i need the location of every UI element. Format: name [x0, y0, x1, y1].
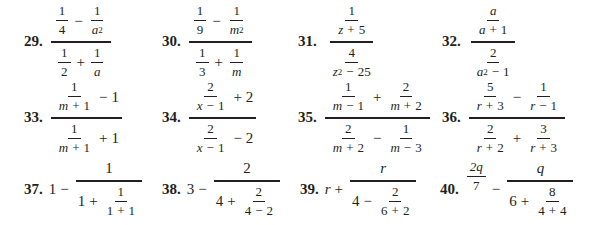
exercise-36: 36. 5r+3 − 1r−1 2r+2 + 3r+3	[442, 80, 567, 155]
complex-fraction: 1m+1 −1 1m+1 +1	[51, 80, 122, 155]
exercise-number: 36.	[442, 109, 461, 126]
complex-fraction: 2x−1 +2 2x−1 −2	[189, 80, 257, 155]
exercise-number: 35.	[298, 109, 317, 126]
exercise-number: 38.	[162, 181, 181, 198]
exercise-38: 38. 3− 2 4+ 24−2	[162, 160, 283, 218]
exercise-number: 29.	[24, 33, 43, 50]
exercise-37: 37. 1− 1 1+ 11+1	[24, 160, 145, 218]
exercise-number: 37.	[24, 181, 43, 198]
continued-fraction: 2 4+ 24−2	[213, 160, 281, 218]
complex-fraction: 1z+5 4z2−25	[325, 4, 379, 79]
exercise-32: 32. aa+1 2a2−1	[442, 4, 520, 79]
exercise-number: 40.	[440, 181, 459, 198]
exercise-number: 31.	[298, 33, 317, 50]
exercise-29: 29. 14 − 1a2 12 + 1a	[24, 4, 113, 79]
exercise-34: 34. 2x−1 +2 2x−1 −2	[162, 80, 258, 155]
exercise-39: 39. r+ r 4− 26+2	[300, 160, 419, 218]
continued-fraction: r 4− 26+2	[349, 160, 417, 218]
exercise-number: 39.	[300, 181, 319, 198]
exercise-35: 35. 1m−1 + 2m+2 2m+2 − 1m−3	[298, 80, 432, 155]
exercise-31: 31. 1z+5 4z2−25	[298, 4, 381, 79]
complex-fraction: aa+1 2a2−1	[469, 4, 518, 79]
exercise-30: 30. 19 − 1m2 13 + 1m	[162, 4, 254, 79]
exercise-number: 33.	[24, 109, 43, 126]
complex-fraction: 19 − 1m2 13 + 1m	[189, 4, 252, 79]
continued-fraction: q 6+ 84+4	[506, 160, 574, 218]
complex-fraction: 5r+3 − 1r−1 2r+2 + 3r+3	[469, 80, 565, 155]
exercise-number: 30.	[162, 33, 181, 50]
complex-fraction: 14 − 1a2 12 + 1a	[51, 4, 111, 79]
exercise-number: 34.	[162, 109, 181, 126]
exercise-33: 33. 1m+1 −1 1m+1 +1	[24, 80, 124, 155]
continued-fraction: 1 1+ 11+1	[75, 160, 143, 218]
exercise-40: 40. 2q7 − q 6+ 84+4	[440, 160, 577, 218]
complex-fraction: 1m−1 + 2m+2 2m+2 − 1m−3	[325, 80, 430, 155]
exercise-number: 32.	[442, 33, 461, 50]
